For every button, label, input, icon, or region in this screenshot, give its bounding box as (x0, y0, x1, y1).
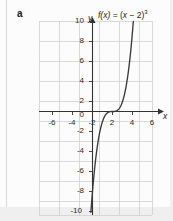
y-tick-10: 10 (68, 16, 84, 25)
y-tick-8: 8 (68, 36, 84, 45)
y-tick-neg6: -6 (68, 166, 84, 175)
y-tick-6: 6 (68, 56, 84, 65)
y-tick-2: 2 (68, 96, 84, 105)
x-tick-6: 6 (145, 118, 159, 127)
x-tick-2: 2 (105, 118, 119, 127)
y-tick-neg2: -2 (68, 126, 84, 135)
y-tick-neg8: -8 (68, 186, 84, 195)
x-tick-neg4: -4 (65, 118, 79, 127)
x-tick-4: 4 (125, 118, 139, 127)
cubic-function-plot (0, 0, 173, 221)
y-tick-4: 4 (68, 76, 84, 85)
y-tick-neg4: -4 (68, 146, 84, 155)
x-tick-neg6: -6 (45, 118, 59, 127)
x-axis-label: x (163, 111, 167, 121)
y-tick-neg10: -10 (66, 206, 82, 215)
figure-page: a f(x) = (x − 2)3 (0, 0, 173, 221)
y-axis-label: y (88, 13, 92, 23)
x-tick-neg2: -2 (85, 118, 99, 127)
